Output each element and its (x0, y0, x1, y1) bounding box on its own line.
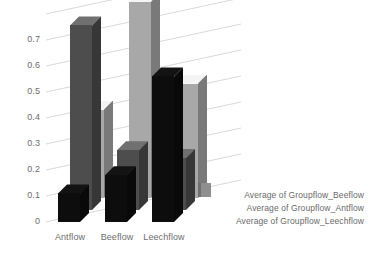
legend-entry-0[interactable]: Average of Groupflow_Beeflow (244, 190, 364, 200)
y-axis-tick-label: 0.6 (14, 60, 40, 70)
x-axis-tick-label-antflow: Antflow (44, 232, 96, 242)
chart-3d-bar: 00.10.20.30.40.50.60.7AntflowBeeflowLeec… (0, 0, 368, 254)
bar-antflow-series-1 (70, 16, 101, 210)
bar-beeflow-series-0 (105, 166, 136, 222)
bar-leechflow-series-0 (152, 67, 183, 222)
legend-entry-2[interactable]: Average of Groupflow_Leechflow (236, 216, 364, 226)
bar-side-face (174, 67, 183, 222)
legend-entry-1[interactable]: Average of Groupflow_Antflow (247, 203, 364, 213)
bar-side-face (139, 141, 148, 210)
y-axis-tick-label: 0.7 (14, 34, 40, 44)
bar-side-face (92, 16, 101, 210)
x-axis-tick-label-beeflow: Beeflow (91, 232, 143, 242)
bar-front-face (152, 76, 174, 222)
legend-marker-icon (198, 183, 211, 197)
bar-side-face (127, 166, 136, 222)
y-axis-tick-label: 0.3 (14, 138, 40, 148)
x-axis-tick-label-leechflow: Leechflow (138, 232, 190, 242)
bar-side-face (186, 149, 195, 210)
y-axis-tick-label: 0.2 (14, 164, 40, 174)
y-axis-tick-label: 0.5 (14, 86, 40, 96)
y-axis-tick-label: 0 (14, 216, 40, 226)
y-axis-tick-label: 0.1 (14, 190, 40, 200)
bar-front-face (58, 193, 80, 222)
plot-area: 00.10.20.30.40.50.60.7AntflowBeeflowLeec… (0, 0, 368, 254)
bar-front-face (70, 25, 92, 210)
y-axis-tick-label: 0.4 (14, 112, 40, 122)
bar-side-face (198, 75, 207, 198)
bar-antflow-series-0 (58, 184, 89, 222)
bar-front-face (105, 175, 127, 222)
